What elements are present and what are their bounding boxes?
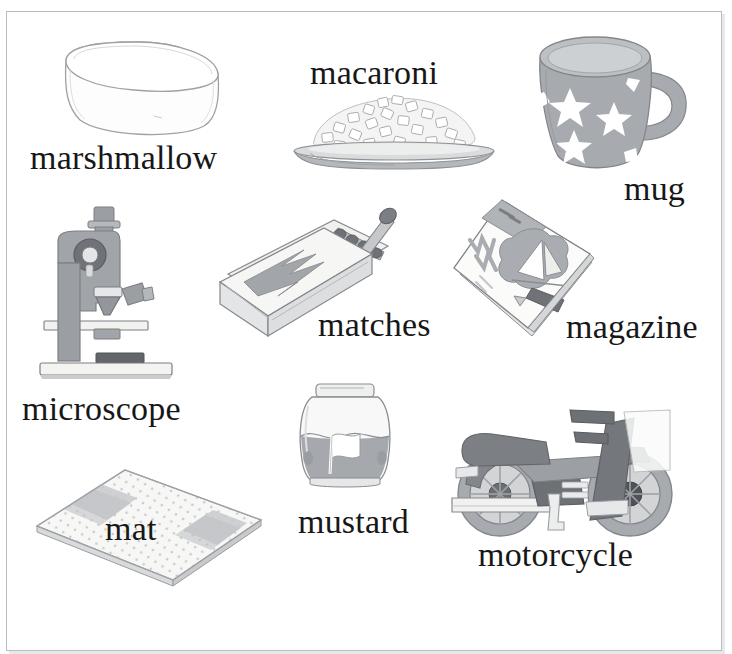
label-mustard: mustard [298, 505, 409, 539]
label-matches: matches [318, 308, 431, 342]
label-mug: mug [624, 172, 685, 206]
macaroni-illustration [288, 85, 500, 171]
label-mat: mat [105, 512, 157, 546]
label-magazine: magazine [566, 310, 698, 344]
mug-illustration [522, 30, 694, 178]
marshmallow-illustration [58, 30, 228, 142]
label-motorcycle: motorcycle [478, 538, 633, 572]
mustard-illustration [294, 382, 396, 494]
microscope-illustration [38, 203, 180, 391]
motorcycle-illustration [438, 390, 676, 542]
label-microscope: microscope [22, 392, 181, 426]
label-marshmallow: marshmallow [30, 141, 217, 175]
